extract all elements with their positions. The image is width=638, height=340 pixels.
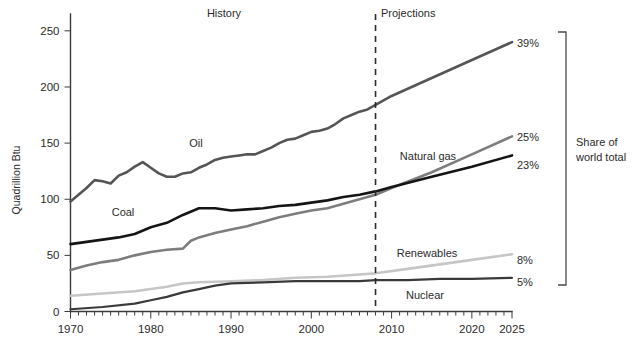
y-tick-label: 150 — [40, 137, 59, 149]
share-label-renewables: 8% — [517, 254, 533, 266]
y-tick-label: 0 — [53, 306, 59, 318]
projections-label: Projections — [381, 7, 436, 19]
series-line-nuclear — [71, 278, 513, 309]
series-line-coal — [71, 155, 513, 244]
share-label-nuclear: 5% — [517, 276, 533, 288]
share-label-coal: 23% — [517, 159, 539, 171]
bracket-label-line1: Share of — [576, 136, 619, 148]
share-bracket — [558, 32, 566, 285]
x-axis-major-ticks — [71, 312, 513, 319]
y-axis-tick-labels: 050100150200250 — [40, 25, 59, 318]
series-label-coal: Coal — [112, 206, 135, 218]
bracket-label-line2: world total — [575, 151, 626, 163]
x-tick-label: 2025 — [499, 323, 525, 335]
energy-consumption-chart: 050100150200250 197019801990200020102020… — [0, 0, 638, 340]
x-tick-label: 1980 — [138, 323, 164, 335]
y-tick-label: 50 — [47, 249, 60, 261]
y-tick-label: 200 — [40, 81, 59, 93]
series-line-oil — [71, 42, 513, 201]
chart-canvas: 050100150200250 197019801990200020102020… — [0, 0, 638, 340]
series-label-renewables: Renewables — [397, 247, 458, 259]
x-tick-label: 1990 — [218, 323, 244, 335]
series-line-renewables — [71, 254, 513, 296]
share-label-natural-gas: 25% — [517, 131, 539, 143]
x-tick-label: 2000 — [299, 323, 325, 335]
y-axis-title: Quadrillion Btu — [10, 145, 22, 214]
x-axis-tick-labels: 1970198019902000201020202025 — [58, 323, 525, 335]
share-label-oil: 39% — [517, 37, 539, 49]
series-lines — [71, 42, 513, 309]
x-tick-label: 2020 — [459, 323, 485, 335]
y-tick-label: 250 — [40, 25, 59, 37]
y-tick-label: 100 — [40, 193, 59, 205]
x-tick-label: 1970 — [58, 323, 84, 335]
history-label: History — [207, 7, 242, 19]
series-label-natural-gas: Natural gas — [400, 150, 457, 162]
series-label-oil: Oil — [189, 137, 202, 149]
x-tick-label: 2010 — [379, 323, 405, 335]
series-label-nuclear: Nuclear — [406, 289, 444, 301]
